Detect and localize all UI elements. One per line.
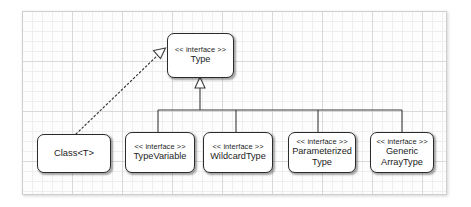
node-parameterized-type-name-line2: Type — [312, 157, 332, 167]
node-class-t-name: Class<T> — [54, 148, 94, 159]
node-generic-array-type-stereotype: << interface >> — [376, 138, 427, 146]
diagram-stage: << interface >> Type Class<T> << interfa… — [0, 0, 471, 207]
node-parameterized-type-name-line1: Parameterized — [292, 146, 352, 156]
node-generic-array-type[interactable]: << interface >> Generic ArrayType — [370, 132, 434, 173]
node-type-name: Type — [191, 54, 211, 64]
node-type-variable-stereotype: << interface >> — [134, 143, 185, 151]
node-parameterized-type-stereotype: << interface >> — [296, 138, 347, 146]
node-generic-array-type-name-line2: ArrayType — [381, 157, 423, 167]
node-parameterized-type[interactable]: << interface >> Parameterized Type — [288, 132, 356, 173]
node-type[interactable]: << interface >> Type — [167, 33, 234, 78]
node-wildcard-type[interactable]: << interface >> WildcardType — [203, 132, 273, 173]
node-generic-array-type-name-line1: Generic — [386, 146, 418, 156]
node-type-variable[interactable]: << interface >> TypeVariable — [125, 132, 195, 173]
node-type-stereotype: << interface >> — [175, 46, 226, 54]
node-type-variable-name: TypeVariable — [134, 151, 187, 161]
diagram-edges — [0, 0, 471, 207]
generalization-edges — [158, 77, 402, 132]
realization-edge — [76, 48, 166, 134]
generalization-arrowhead-icon — [195, 77, 205, 88]
node-class-t[interactable]: Class<T> — [37, 134, 111, 173]
node-wildcard-type-name: WildcardType — [210, 151, 266, 161]
node-wildcard-type-stereotype: << interface >> — [212, 143, 263, 151]
